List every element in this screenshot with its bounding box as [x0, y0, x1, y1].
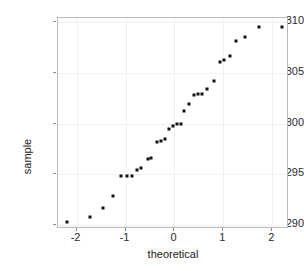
x-tick-label: 1: [202, 231, 242, 243]
x-axis-title: theoretical: [57, 248, 289, 260]
x-tick-label: -2: [56, 231, 96, 243]
x-axis-ticks: -2-1012: [0, 0, 304, 271]
x-tick-mark: [271, 228, 272, 231]
x-tick-label: 2: [251, 231, 291, 243]
x-tick-mark: [173, 228, 174, 231]
x-tick-mark: [125, 228, 126, 231]
qq-plot-figure: sample 290295300305310 -2-1012 theoretic…: [0, 0, 304, 271]
x-tick-label: 0: [153, 231, 193, 243]
x-tick-label: -1: [105, 231, 145, 243]
x-tick-mark: [76, 228, 77, 231]
x-tick-mark: [222, 228, 223, 231]
